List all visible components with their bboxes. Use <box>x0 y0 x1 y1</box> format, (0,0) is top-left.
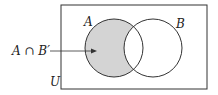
venn-diagram: A B U A ∩ B′ <box>0 0 218 95</box>
universe-label: U <box>50 75 61 89</box>
set-a-label: A <box>83 15 93 29</box>
set-b-label: B <box>175 17 185 31</box>
set-b-circle <box>124 19 182 77</box>
annotation-label: A ∩ B′ <box>11 44 50 58</box>
universe-rectangle <box>61 5 207 89</box>
